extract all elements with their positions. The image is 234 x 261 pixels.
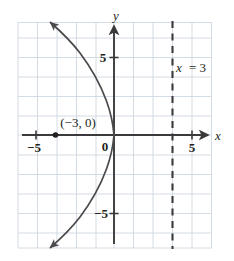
coordinate-plane-svg: y x 0 −5 5 5 −5 (−3, 0) x = 3	[0, 0, 234, 261]
graph-figure: y x 0 −5 5 5 −5 (−3, 0) x = 3	[0, 0, 234, 261]
y-axis-label: y	[111, 8, 119, 23]
x-axis-label: x	[214, 128, 221, 143]
y-tick-label-neg5: −5	[94, 206, 108, 221]
x-tick-label-pos5: 5	[189, 140, 196, 155]
asymptote-label-value: = 3	[189, 60, 206, 75]
x-axis	[22, 131, 208, 140]
origin-tick-label: 0	[102, 139, 109, 154]
point-label-neg3-0: (−3, 0)	[60, 115, 96, 130]
x-tick-label-neg5: −5	[27, 140, 41, 155]
point-marker-neg3-0	[53, 132, 59, 138]
asymptote-label-variable: x	[175, 60, 182, 75]
asymptote-label-x-equals-3: x = 3	[175, 60, 206, 75]
y-tick-label-pos5: 5	[100, 50, 107, 65]
